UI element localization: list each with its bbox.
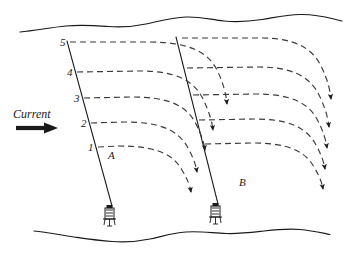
mooring-line-a [67,41,112,206]
water-surface-wavy-line [20,14,342,32]
current-arrow-icon [16,123,58,134]
depth-label-4: 4 [67,67,73,78]
seabed-wavy-line [34,229,330,242]
diagram-canvas [0,0,349,254]
point-a-label: A [108,150,115,161]
depth-label-1: 1 [88,142,94,153]
point-b-label: B [239,177,246,188]
flow-path-1 [98,143,323,192]
mooring-line-b [176,37,218,204]
depth-label-5: 5 [60,37,66,48]
anchor-figure-icon-b [209,203,222,224]
anchor-figure-icon-a [103,205,116,226]
current-profile-diagram: Current 5 4 3 2 1 A B [0,0,349,254]
depth-label-2: 2 [81,118,87,129]
flow-path-3 [84,94,327,150]
depth-label-3: 3 [74,93,80,104]
current-label: Current [13,108,51,120]
flow-path-4 [77,67,329,130]
